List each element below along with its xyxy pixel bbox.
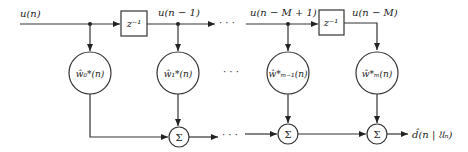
- tap1-label: u(n − 1): [158, 7, 200, 18]
- ellipsis-top: · · ·: [219, 17, 235, 28]
- delay-label-2: z⁻¹: [323, 17, 339, 28]
- tapm1-label: u(n − M + 1): [250, 7, 317, 18]
- weight-label-m1: ŵ*ₘ₋₁(n): [269, 69, 308, 79]
- weight-label-0: ŵ₀*(n): [76, 69, 105, 79]
- delay-label-1: z⁻¹: [126, 18, 142, 29]
- summer-label-m1: Σ: [284, 129, 291, 140]
- weight-label-1: ŵ₁*(n): [164, 69, 193, 79]
- transversal-filter-diagram: u(n) u(n − 1) u(n − M + 1) u(n − M) z⁻¹ …: [0, 0, 468, 152]
- summer-label-1: Σ: [175, 132, 182, 143]
- output-label: d̂(n | 𝔘ₙ): [412, 128, 453, 141]
- ellipsis-bottom: · · ·: [222, 129, 238, 140]
- ellipsis-middle: · · ·: [223, 66, 239, 77]
- input-label: u(n): [20, 8, 41, 19]
- tapm-label: u(n − M): [352, 7, 398, 18]
- tap-line-m: [344, 23, 377, 50]
- summer-label-m: Σ: [373, 129, 380, 140]
- weight-0-to-sum: [90, 94, 168, 137]
- weight-label-m: ŵ*ₘ(n): [362, 69, 393, 79]
